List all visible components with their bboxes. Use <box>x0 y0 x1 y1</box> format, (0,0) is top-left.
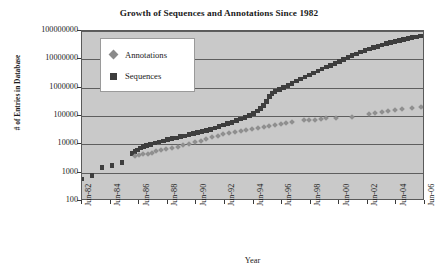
x-axis-tick-label: Jun-88 <box>170 184 179 206</box>
data-point-sequences <box>307 73 312 78</box>
data-point-annotations <box>136 152 142 158</box>
data-point-sequences <box>371 45 376 50</box>
data-point-sequences <box>187 132 192 137</box>
x-axis-tick-mark <box>310 200 311 204</box>
data-point-sequences <box>311 71 316 76</box>
data-point-annotations <box>203 136 209 142</box>
data-point-annotations <box>238 128 244 134</box>
y-axis-tick-label: 100000000 <box>8 25 78 34</box>
data-point-annotations <box>149 150 155 156</box>
x-axis-tick-mark <box>138 200 139 204</box>
data-point-annotations <box>249 126 255 132</box>
data-point-annotations <box>132 153 138 159</box>
x-axis-tick-label: Jun-92 <box>227 184 236 206</box>
data-point-sequences <box>316 69 321 74</box>
data-point-sequences <box>267 94 272 99</box>
x-axis-tick-label: Jun-02 <box>370 184 379 206</box>
data-point-sequences <box>217 124 222 129</box>
x-axis-tick-mark <box>81 200 82 204</box>
data-point-sequences <box>376 44 381 49</box>
legend-label-annotations: Annotations <box>125 50 167 60</box>
data-point-sequences <box>273 89 278 94</box>
chart-legend: Annotations Sequences <box>100 38 195 92</box>
x-axis-tick-mark <box>395 200 396 204</box>
x-axis-tick-label: Jun-04 <box>399 184 408 206</box>
data-point-sequences <box>270 91 275 96</box>
y-axis-tick-label: 1000000 <box>8 82 78 91</box>
data-point-sequences <box>165 137 170 142</box>
x-axis-tick-label: Jun-96 <box>284 184 293 206</box>
data-point-sequences <box>384 41 389 46</box>
data-point-sequences <box>333 61 338 66</box>
chart-title: Growth of Sequences and Annotations Sinc… <box>0 8 438 18</box>
data-point-annotations <box>221 132 227 138</box>
data-point-sequences <box>303 75 308 80</box>
data-point-sequences <box>367 47 372 52</box>
data-point-sequences <box>290 81 295 86</box>
data-point-sequences <box>397 38 402 43</box>
data-point-sequences <box>388 40 393 45</box>
data-point-annotations <box>385 108 391 114</box>
legend-item-sequences[interactable]: Sequences <box>109 69 161 83</box>
data-point-sequences <box>133 149 138 154</box>
x-axis-tick-label: Jun-84 <box>113 184 122 206</box>
data-point-sequences <box>221 123 226 128</box>
data-point-annotations <box>318 116 324 122</box>
gridline <box>82 116 423 117</box>
diamond-marker-icon <box>109 50 119 60</box>
data-point-annotations <box>141 152 147 158</box>
data-point-sequences <box>423 33 424 38</box>
data-point-sequences <box>191 131 196 136</box>
data-point-sequences <box>225 121 230 126</box>
data-point-annotations <box>198 138 204 144</box>
data-point-annotations <box>261 124 267 130</box>
data-point-sequences <box>178 134 183 139</box>
x-axis-tick-mark <box>424 200 425 204</box>
data-point-sequences <box>406 36 411 41</box>
data-point-sequences <box>328 63 333 68</box>
data-point-sequences <box>200 129 205 134</box>
data-point-sequences <box>261 103 266 108</box>
data-point-sequences <box>324 65 329 70</box>
data-point-sequences <box>174 136 179 141</box>
data-point-annotations <box>278 121 284 127</box>
gridline <box>82 173 423 174</box>
data-point-sequences <box>138 146 143 151</box>
data-point-sequences <box>350 53 355 58</box>
data-point-sequences <box>204 128 209 133</box>
data-point-sequences <box>251 111 256 116</box>
data-point-sequences <box>401 37 406 42</box>
data-point-sequences <box>81 177 84 182</box>
data-point-annotations <box>301 118 307 124</box>
data-point-annotations <box>409 106 415 112</box>
data-point-sequences <box>380 43 385 48</box>
data-point-sequences <box>230 120 235 125</box>
data-point-sequences <box>354 52 359 57</box>
data-point-annotations <box>266 123 272 129</box>
chart-figure: Growth of Sequences and Annotations Sinc… <box>0 0 438 274</box>
data-point-annotations <box>392 107 398 113</box>
data-point-sequences <box>358 50 363 55</box>
y-axis-tick-label: 10000000 <box>8 53 78 62</box>
data-point-sequences <box>298 77 303 82</box>
data-point-sequences <box>141 144 146 149</box>
x-axis-tick-label: Jun-82 <box>84 184 93 206</box>
x-axis-tick-label: Jun-94 <box>256 184 265 206</box>
legend-item-annotations[interactable]: Annotations <box>109 48 167 62</box>
data-point-annotations <box>232 129 238 135</box>
data-point-sequences <box>294 79 299 84</box>
data-point-annotations <box>312 117 318 123</box>
x-axis-tick-label: Jun-06 <box>427 184 436 206</box>
data-point-annotations <box>272 122 278 128</box>
data-point-sequences <box>120 160 125 165</box>
x-axis-tick-mark <box>167 200 168 204</box>
y-axis-tick-label: 1000 <box>8 167 78 176</box>
y-axis-tick-label: 10000 <box>8 138 78 147</box>
data-point-annotations <box>379 109 385 115</box>
data-point-sequences <box>234 118 239 123</box>
square-marker-icon <box>109 71 119 81</box>
data-point-sequences <box>170 136 175 141</box>
data-point-sequences <box>195 130 200 135</box>
x-axis-tick-mark <box>281 200 282 204</box>
data-point-annotations <box>169 145 175 151</box>
